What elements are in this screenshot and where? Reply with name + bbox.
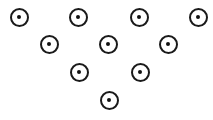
dot-marker [159, 35, 178, 54]
dot-marker [131, 63, 150, 82]
dot-marker [189, 8, 208, 27]
dot-marker-core [76, 15, 81, 20]
dot-marker-core [138, 70, 143, 75]
dot-marker-core [137, 15, 142, 20]
dot-marker-core [47, 42, 52, 47]
dot-marker-core [77, 70, 82, 75]
dot-marker-core [166, 42, 171, 47]
dot-marker-core [106, 42, 111, 47]
dot-pattern-canvas [0, 0, 213, 120]
dot-marker-core [107, 98, 112, 103]
dot-marker [69, 8, 88, 27]
dot-marker [130, 8, 149, 27]
dot-marker [100, 91, 119, 110]
dot-marker [40, 35, 59, 54]
dot-marker-core [17, 15, 22, 20]
dot-marker [10, 8, 29, 27]
dot-marker-core [196, 15, 201, 20]
dot-marker [99, 35, 118, 54]
dot-marker [70, 63, 89, 82]
